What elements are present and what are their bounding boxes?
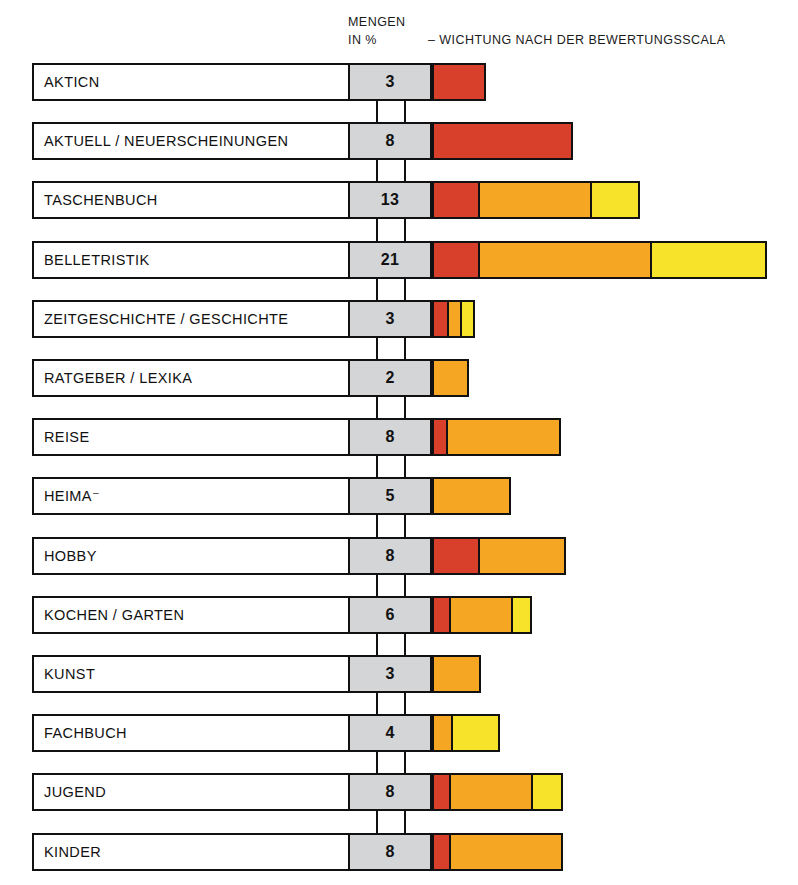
bar-segment-red xyxy=(434,835,449,869)
bar-segment-orange xyxy=(478,539,564,573)
bar-segment-yellow xyxy=(460,302,473,336)
value-label: 8 xyxy=(385,132,394,150)
stacked-bar xyxy=(432,596,532,634)
category-label: AKTICN xyxy=(34,74,100,90)
category-label-box: KUNST xyxy=(32,655,350,693)
bar-segment-yellow xyxy=(451,716,498,750)
category-label-box: FACHBUCH xyxy=(32,714,350,752)
value-box: 6 xyxy=(348,596,432,634)
header-mengen: MENGEN xyxy=(348,15,406,29)
value-label: 8 xyxy=(385,783,394,801)
bar-segment-red xyxy=(434,302,447,336)
stacked-bar xyxy=(432,359,469,397)
category-label-box: HOBBY xyxy=(32,537,350,575)
category-label-box: KINDER xyxy=(32,833,350,871)
bar-segment-orange xyxy=(478,243,650,277)
category-label-box: AKTUELL / NEUERSCHEINUNGEN xyxy=(32,122,350,160)
value-box: 3 xyxy=(348,63,432,101)
category-label: RATGEBER / LEXIKA xyxy=(34,370,192,386)
value-label: 8 xyxy=(385,547,394,565)
header-in-prozent: IN % xyxy=(348,33,377,47)
value-label: 6 xyxy=(385,606,394,624)
category-label-box: AKTICN xyxy=(32,63,350,101)
value-label: 3 xyxy=(385,665,394,683)
category-label: AKTUELL / NEUERSCHEINUNGEN xyxy=(34,133,288,149)
category-label-box: ZEITGESCHICHTE / GESCHICHTE xyxy=(32,300,350,338)
value-label: 4 xyxy=(385,724,394,742)
bar-segment-orange xyxy=(434,361,467,395)
stacked-bar xyxy=(432,418,561,456)
value-box: 8 xyxy=(348,537,432,575)
category-label: KUNST xyxy=(34,666,95,682)
bar-segment-orange xyxy=(478,183,590,217)
value-box: 8 xyxy=(348,773,432,811)
stacked-bar xyxy=(432,537,566,575)
bar-segment-red xyxy=(434,183,478,217)
category-label: HEIMA⁻ xyxy=(34,488,100,504)
stacked-bar xyxy=(432,63,486,101)
category-label: FACHBUCH xyxy=(34,725,127,741)
bar-segment-orange xyxy=(446,420,559,454)
category-label-box: HEIMA⁻ xyxy=(32,477,350,515)
value-label: 2 xyxy=(385,369,394,387)
bar-segment-yellow xyxy=(590,183,638,217)
stacked-bar xyxy=(432,655,481,693)
bar-segment-orange xyxy=(449,598,511,632)
bar-segment-yellow xyxy=(650,243,765,277)
chart-root: MENGEN IN % – WICHTUNG NACH DER BEWERTUN… xyxy=(0,0,798,885)
category-label: KOCHEN / GARTEN xyxy=(34,607,184,623)
value-label: 3 xyxy=(385,310,394,328)
stacked-bar xyxy=(432,833,563,871)
stacked-bar xyxy=(432,477,511,515)
bar-segment-red xyxy=(434,243,478,277)
category-label: KINDER xyxy=(34,844,101,860)
bar-segment-red xyxy=(434,598,449,632)
stacked-bar xyxy=(432,181,640,219)
category-label-box: TASCHENBUCH xyxy=(32,181,350,219)
value-box: 2 xyxy=(348,359,432,397)
stacked-bar xyxy=(432,714,500,752)
bar-segment-orange xyxy=(449,775,531,809)
category-label: REISE xyxy=(34,429,90,445)
bar-segment-orange xyxy=(434,657,479,691)
bar-segment-orange xyxy=(447,302,460,336)
stacked-bar xyxy=(432,773,563,811)
category-label: BELLETRISTIK xyxy=(34,252,150,268)
bar-segment-red xyxy=(434,124,571,158)
bar-segment-red xyxy=(434,539,478,573)
stacked-bar xyxy=(432,241,767,279)
bar-segment-red xyxy=(434,775,449,809)
bar-segment-red xyxy=(434,420,446,454)
stacked-bar xyxy=(432,300,475,338)
value-box: 8 xyxy=(348,122,432,160)
category-label-box: BELLETRISTIK xyxy=(32,241,350,279)
category-label: HOBBY xyxy=(34,548,97,564)
value-box: 8 xyxy=(348,418,432,456)
value-label: 13 xyxy=(381,191,399,209)
bar-segment-yellow xyxy=(531,775,561,809)
category-label: TASCHENBUCH xyxy=(34,192,158,208)
value-box: 3 xyxy=(348,300,432,338)
category-label-box: REISE xyxy=(32,418,350,456)
value-label: 21 xyxy=(381,251,399,269)
bar-segment-orange xyxy=(434,479,509,513)
value-label: 5 xyxy=(385,487,394,505)
value-box: 8 xyxy=(348,833,432,871)
value-label: 8 xyxy=(385,428,394,446)
category-label-box: RATGEBER / LEXIKA xyxy=(32,359,350,397)
value-box: 13 xyxy=(348,181,432,219)
value-box: 3 xyxy=(348,655,432,693)
bar-segment-orange xyxy=(449,835,561,869)
category-label-box: JUGEND xyxy=(32,773,350,811)
stacked-bar xyxy=(432,122,573,160)
value-box: 4 xyxy=(348,714,432,752)
category-label: ZEITGESCHICHTE / GESCHICHTE xyxy=(34,311,288,327)
category-label-box: KOCHEN / GARTEN xyxy=(32,596,350,634)
category-label: JUGEND xyxy=(34,784,106,800)
bar-segment-yellow xyxy=(511,598,530,632)
value-box: 21 xyxy=(348,241,432,279)
bar-segment-red xyxy=(434,65,484,99)
header-wichtung: – WICHTUNG NACH DER BEWERTUNGSSCALA xyxy=(428,33,726,47)
value-box: 5 xyxy=(348,477,432,515)
value-label: 8 xyxy=(385,843,394,861)
